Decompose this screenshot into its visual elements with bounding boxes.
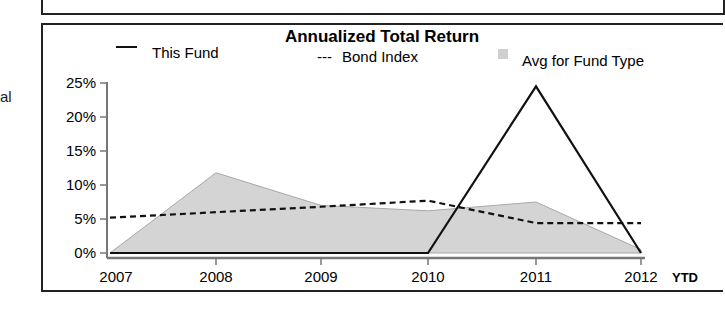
y-tick-label: 20% (66, 108, 96, 125)
legend-avg-fund-type: Avg for Fund Type (522, 52, 644, 69)
x-tick-label: 2012 (624, 268, 657, 285)
x-axis: 200720082009201020112012 (99, 258, 657, 285)
legend-dash-marker: --- (317, 48, 332, 65)
legend-shaded-square-icon (498, 49, 508, 59)
ytd-label: YTD (672, 270, 698, 285)
chart-title: Annualized Total Return (285, 27, 479, 46)
x-tick-label: 2010 (411, 268, 444, 285)
y-tick-label: 25% (66, 74, 96, 91)
y-tick-label: 5% (74, 210, 96, 227)
x-tick-label: 2011 (520, 268, 552, 285)
y-axis: 0%5%10%15%20%25% (66, 74, 107, 261)
x-tick-label: 2008 (199, 268, 232, 285)
avg-fund-type-area (110, 173, 641, 253)
x-tick-label: 2009 (304, 268, 337, 285)
x-tick-label: 2007 (99, 268, 132, 285)
legend-bond-index: Bond Index (342, 48, 418, 65)
legend: This Fund --- Bond Index Avg for Fund Ty… (116, 44, 644, 69)
y-tick-label: 15% (66, 142, 96, 159)
y-tick-label: 0% (74, 244, 96, 261)
plot-area (110, 86, 641, 253)
legend-this-fund: This Fund (152, 44, 219, 61)
y-tick-label: 10% (66, 176, 96, 193)
